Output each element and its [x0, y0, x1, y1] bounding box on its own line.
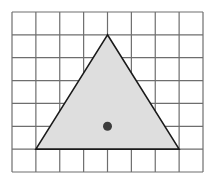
- grid-diagram: [0, 0, 216, 182]
- point-dot: [103, 122, 112, 131]
- triangle: [36, 35, 179, 149]
